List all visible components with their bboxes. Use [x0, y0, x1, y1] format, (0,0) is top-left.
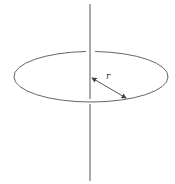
loop-front-arc — [14, 77, 168, 102]
wire-loop-figure — [0, 0, 175, 184]
diagram-canvas: r — [0, 0, 175, 184]
radius-arrow — [92, 78, 126, 98]
radius-label: r — [106, 72, 110, 81]
loop-back-arc-left — [14, 52, 86, 78]
